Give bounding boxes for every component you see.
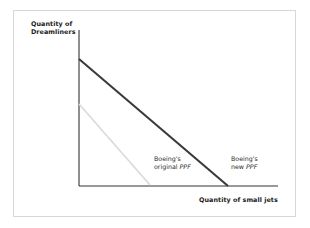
annotation-new-ppf-abbrev: PPF <box>246 163 257 170</box>
annotation-new-ppf: Boeing's new PPF <box>231 155 258 171</box>
annotation-original-ppf-line1: Boeing's <box>154 155 191 163</box>
series-line-original-ppf <box>79 104 150 185</box>
annotation-original-ppf: Boeing's original PPF <box>154 155 191 171</box>
annotation-original-ppf-prefix: original <box>154 163 180 170</box>
annotation-new-ppf-prefix: new <box>231 163 246 170</box>
y-axis-label: Quantity of Dreamliners <box>31 20 76 36</box>
annotation-original-ppf-abbrev: PPF <box>180 163 191 170</box>
ppf-chart-figure: Quantity of Dreamliners Quantity of smal… <box>0 0 310 228</box>
annotation-new-ppf-line2: new PPF <box>231 163 258 171</box>
annotation-new-ppf-line1: Boeing's <box>231 155 258 163</box>
x-axis-label: Quantity of small jets <box>199 196 278 204</box>
annotation-original-ppf-line2: original PPF <box>154 163 191 171</box>
